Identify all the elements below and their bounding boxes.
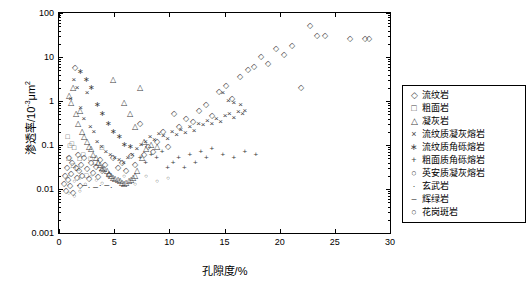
legend-item[interactable]: ○花岗斑岩 [406,206,522,219]
y-tick-label: 1 [49,96,54,106]
data-point [232,154,237,162]
data-point [110,183,113,192]
y-minor-tick [59,75,61,76]
data-point [166,175,170,181]
data-point [73,193,77,199]
y-minor-tick [59,108,61,109]
y-minor-tick [59,103,61,104]
y-minor-tick [59,149,61,150]
legend-item[interactable]: ◇流纹岩 [406,89,522,102]
x-tick-label: 0 [56,237,61,247]
x-tick-label: 10 [164,237,174,247]
y-minor-tick [388,202,390,203]
y-tick-mark [386,145,390,146]
data-point [93,183,98,192]
x-tick-mark [169,13,170,17]
data-point [221,151,226,159]
legend-item[interactable]: □粗面岩 [406,102,522,115]
y-minor-tick [388,220,390,221]
y-minor-tick [59,193,61,194]
legend-item[interactable]: ·玄武岩 [406,180,522,193]
y-minor-tick [59,168,61,169]
x-tick-mark [280,229,281,233]
x-tick-mark [114,229,115,233]
data-point [94,101,101,109]
y-minor-tick [388,207,390,208]
y-minor-tick [59,207,61,208]
x-tick-mark [59,229,60,233]
data-point [144,173,148,179]
legend-marker-dash-icon: – [406,193,422,206]
legend-label: 花岗斑岩 [422,206,458,219]
data-point [198,148,203,156]
data-point [89,173,93,179]
y-minor-tick [59,111,61,112]
x-tick-mark [390,13,391,17]
data-point [273,45,279,53]
data-point [347,35,353,43]
x-tick-label: 5 [112,237,117,247]
data-point [67,173,71,179]
data-point [171,110,177,118]
data-point [138,154,143,162]
legend-item[interactable]: ∗流纹质角砾熔岩 [406,141,522,154]
data-point [75,165,79,172]
legend-label: 粗面质角砾熔岩 [422,154,485,167]
x-tick-label: 15 [219,237,229,247]
data-point [99,110,106,118]
data-point [68,95,73,103]
y-minor-tick [388,70,390,71]
legend-label: 辉绿岩 [422,193,449,206]
legend: ◇流纹岩□粗面岩△凝灰岩×流纹质凝灰熔岩∗流纹质角砾熔岩+粗面质角砾熔岩○英安质… [402,85,526,223]
legend-item[interactable]: ○英安质凝灰熔岩 [406,167,522,180]
y-minor-tick [59,20,61,21]
data-point [226,97,231,105]
y-minor-tick [59,114,61,115]
legend-label: 凝灰岩 [422,115,449,128]
y-tick-mark [386,57,390,58]
legend-marker-dot-icon: · [406,180,422,193]
legend-marker-circle-icon: ○ [406,206,422,219]
x-tick-mark [225,229,226,233]
y-axis-label-pre: 渗透率/10 [25,107,37,155]
y-minor-tick [59,23,61,24]
y-minor-tick [388,111,390,112]
x-axis-label: 孔隙度/% [58,262,391,278]
legend-marker-circle-icon: ○ [406,167,422,180]
data-point [155,178,159,184]
y-minor-tick [388,59,390,60]
data-point [204,154,209,162]
y-minor-tick [59,64,61,65]
data-point [78,188,82,194]
y-minor-tick [59,199,61,200]
legend-item[interactable]: △凝灰岩 [406,115,522,128]
legend-item[interactable]: +粗面质角砾熔岩 [406,154,522,167]
data-point [298,84,304,92]
data-point [251,63,257,71]
data-point [289,42,295,50]
data-point [366,35,372,43]
y-minor-tick [59,124,61,125]
y-minor-tick [59,17,61,18]
data-point [254,151,259,159]
y-minor-tick [388,108,390,109]
data-point [193,159,198,167]
legend-item[interactable]: ×流纹质凝灰熔岩 [406,128,522,141]
y-minor-tick [59,80,61,81]
y-minor-tick [388,64,390,65]
data-point [209,145,214,153]
data-point [203,101,209,109]
x-tick-label: 30 [385,237,395,247]
y-minor-tick [388,23,390,24]
data-point [149,151,154,159]
data-point [314,32,320,40]
x-tick-mark [335,13,336,17]
data-point [137,84,143,92]
y-minor-tick [388,168,390,169]
y-minor-tick [388,155,390,156]
legend-item[interactable]: –辉绿岩 [406,193,522,206]
x-tick-mark [335,229,336,233]
data-point [88,84,95,92]
y-minor-tick [388,196,390,197]
data-point [82,181,87,190]
